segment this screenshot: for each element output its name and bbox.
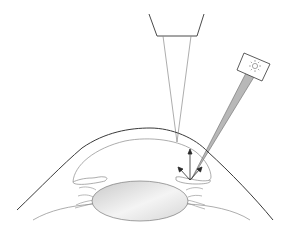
light-source <box>237 53 270 81</box>
microscope-objective <box>149 14 204 36</box>
iris-right <box>176 177 210 184</box>
ciliary-right <box>186 188 205 209</box>
eye-slit-lamp-diagram <box>0 0 292 235</box>
observation-cone <box>163 36 191 142</box>
iris-left <box>73 177 107 185</box>
crystalline-lens <box>92 181 188 221</box>
light-beam <box>191 73 254 180</box>
